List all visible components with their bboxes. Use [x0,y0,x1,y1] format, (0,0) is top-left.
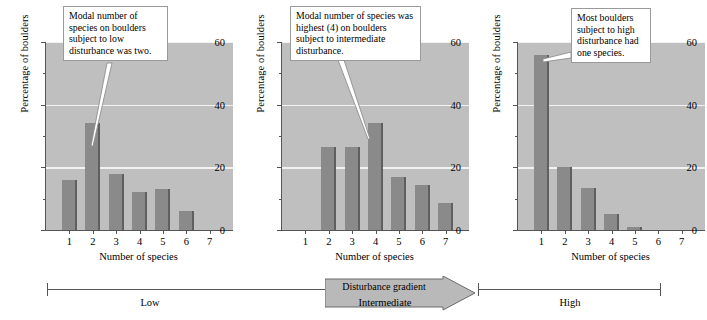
gradient-tick-right [660,283,661,296]
gradient-arrow-label: Disturbance gradient [325,281,443,292]
callout-high: Most boulders subject to high disturbanc… [571,8,651,63]
callout-intermediate: Modal number of species was highest (4) … [290,6,421,61]
callout-low: Modal number of species on boulders subj… [63,6,168,61]
gradient-arrow: Disturbance gradient [325,276,475,316]
gradient-line-high [478,289,660,290]
panel-low-disturbance: Percentage of boulders 02040601234567 Nu… [0,0,236,272]
figure-root: Percentage of boulders 02040601234567 Nu… [0,0,707,320]
disturbance-gradient-strip: Disturbance gradient Low Intermediate Hi… [0,272,707,320]
gradient-label-high: High [560,297,581,308]
gradient-line-low [47,289,327,290]
panel-intermediate-disturbance: Percentage of boulders 02040601234567 Nu… [236,0,472,272]
panel-high-disturbance: Percentage of boulders 02040601234567 Nu… [472,0,707,272]
gradient-label-intermediate: Intermediate [358,297,411,308]
gradient-label-low: Low [140,297,159,308]
